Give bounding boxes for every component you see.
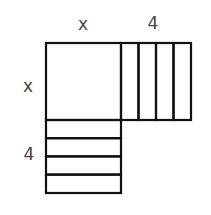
right-strip	[156, 43, 174, 120]
bottom-strips	[46, 120, 121, 193]
label-left-4: 4	[24, 144, 35, 164]
algebra-tiles-diagram: x 4 x 4	[0, 0, 211, 215]
label-top-4: 4	[148, 13, 159, 33]
label-left-x: x	[23, 76, 33, 96]
right-strip	[139, 43, 157, 120]
bottom-strip	[46, 138, 121, 156]
x-squared-tile	[46, 43, 121, 120]
right-strips	[121, 43, 191, 120]
bottom-strip	[46, 120, 121, 138]
label-top-x: x	[78, 14, 88, 34]
right-strip	[121, 43, 139, 120]
bottom-strip	[46, 175, 121, 193]
bottom-strip	[46, 156, 121, 174]
right-strip	[174, 43, 192, 120]
